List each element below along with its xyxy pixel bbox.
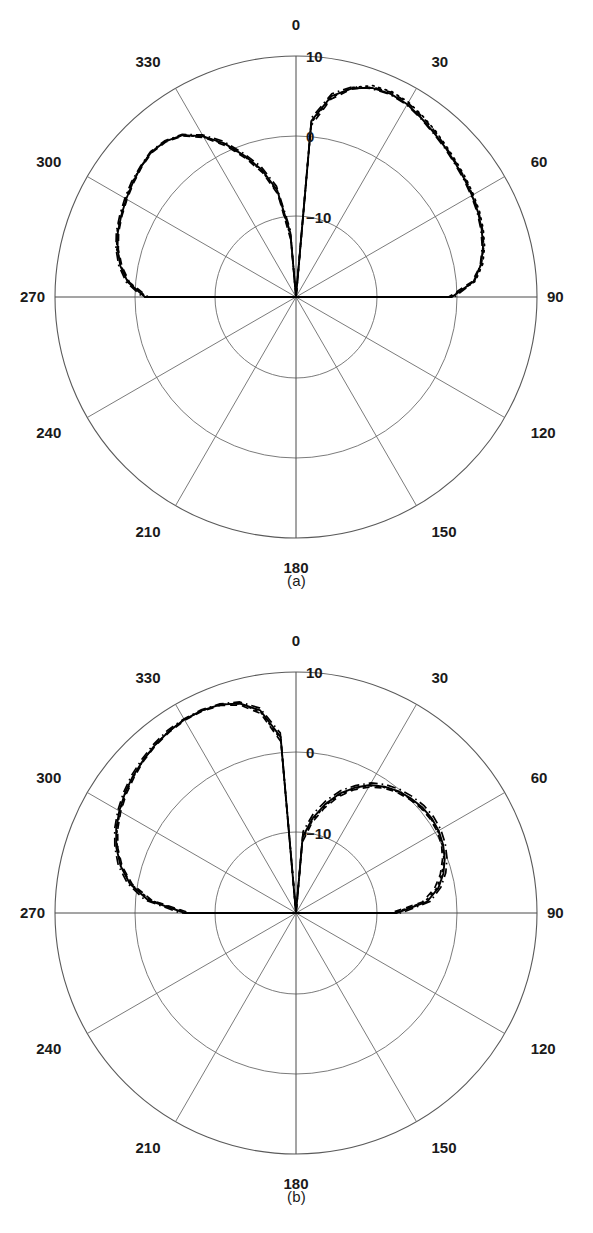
caption-b: (b)	[0, 1188, 593, 1205]
angle-label-150: 150	[432, 1139, 457, 1156]
angle-label-150: 150	[432, 523, 457, 540]
radial-label-0: 0	[306, 744, 314, 761]
grid-spoke-210	[176, 913, 297, 1122]
angle-label-30: 30	[432, 669, 449, 686]
radial-tick-labels: 100−10	[306, 664, 331, 842]
angle-label-0: 0	[292, 16, 300, 33]
pattern-curve-dashed	[118, 87, 483, 297]
angle-label-120: 120	[531, 424, 556, 441]
angle-label-330: 330	[135, 669, 160, 686]
angle-label-60: 60	[531, 769, 548, 786]
angle-tick-labels: 0306090120150180210240270300330	[20, 632, 564, 1192]
polar-figure: 0306090120150180210240270300330100−10 (a…	[0, 0, 593, 1233]
polar-chart-a-svg: 0306090120150180210240270300330100−10	[0, 0, 593, 600]
angle-label-240: 240	[36, 424, 61, 441]
pattern-curve-solid	[118, 88, 483, 297]
angle-label-240: 240	[36, 1040, 61, 1057]
grid-spoke-150	[296, 913, 417, 1122]
radial-label-10: 10	[306, 48, 323, 65]
angle-label-300: 300	[36, 153, 61, 170]
angle-label-90: 90	[547, 288, 564, 305]
angle-label-210: 210	[135, 1139, 160, 1156]
grid-spoke-30	[296, 704, 417, 913]
angle-label-60: 60	[531, 153, 548, 170]
pattern-curves	[115, 702, 447, 913]
radial-label-0: 0	[306, 128, 314, 145]
polar-plot-b: 0306090120150180210240270300330100−10 (b…	[0, 616, 593, 1216]
pattern-curves	[116, 86, 485, 297]
angle-label-0: 0	[292, 632, 300, 649]
angle-label-330: 330	[135, 53, 160, 70]
pattern-curve-dash-dot	[116, 87, 482, 297]
caption-a: (a)	[0, 572, 593, 589]
angle-label-90: 90	[547, 904, 564, 921]
angle-label-210: 210	[135, 523, 160, 540]
radial-label-10: 10	[306, 664, 323, 681]
angle-label-270: 270	[20, 288, 45, 305]
pattern-curve-dash-dot	[115, 702, 447, 913]
angle-label-300: 300	[36, 769, 61, 786]
radial-label-minus10: −10	[306, 825, 331, 842]
grid-spoke-150	[296, 297, 417, 506]
angle-tick-labels: 0306090120150180210240270300330	[20, 16, 564, 576]
radial-label-minus10: −10	[306, 209, 331, 226]
grid-spoke-240	[87, 297, 296, 418]
grid-spoke-60	[296, 793, 505, 914]
grid-spoke-120	[296, 297, 505, 418]
angle-label-120: 120	[531, 1040, 556, 1057]
pattern-curve-dotted	[117, 86, 485, 297]
polar-chart-b-svg: 0306090120150180210240270300330100−10	[0, 616, 593, 1216]
angle-label-270: 270	[20, 904, 45, 921]
grid-spoke-210	[176, 297, 297, 506]
angle-label-30: 30	[432, 53, 449, 70]
radial-tick-labels: 100−10	[306, 48, 331, 226]
polar-plot-a: 0306090120150180210240270300330100−10 (a…	[0, 0, 593, 600]
grid-spoke-120	[296, 913, 505, 1034]
grid-spoke-240	[87, 913, 296, 1034]
